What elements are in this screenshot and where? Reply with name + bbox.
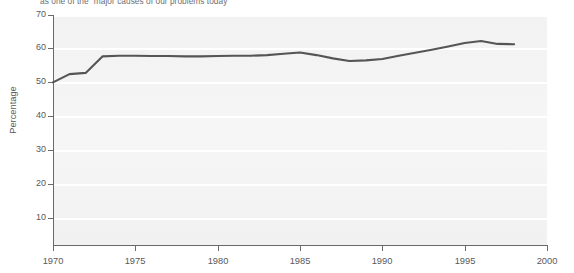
series-line-percentage bbox=[53, 41, 514, 82]
chart-figure: as one of the “major causes of our probl… bbox=[0, 0, 574, 273]
series-layer bbox=[0, 0, 574, 273]
